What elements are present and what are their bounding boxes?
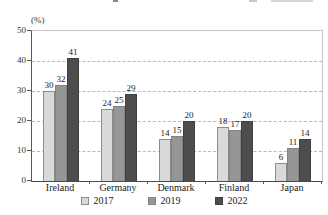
category-label-denmark: Denmark — [147, 182, 205, 193]
bar-2019-japan — [287, 148, 299, 181]
bar-value-label: 32 — [57, 74, 66, 84]
bar-wrap: 15 — [171, 125, 183, 181]
bar-value-label: 11 — [289, 137, 298, 147]
bar-value-label: 15 — [173, 125, 182, 135]
bar-2022-japan — [299, 139, 311, 181]
bar-group-denmark: 141520 — [148, 31, 206, 181]
bar-value-label: 18 — [219, 116, 228, 126]
bar-group-japan: 61114 — [264, 31, 322, 181]
bar-2017-germany — [101, 109, 113, 181]
legend-label: 2017 — [94, 196, 114, 206]
bar-value-label: 41 — [69, 47, 78, 57]
bar-2022-germany — [125, 94, 137, 181]
bar-2017-denmark — [159, 139, 171, 181]
bar-wrap: 30 — [43, 80, 55, 181]
bar-value-label: 14 — [301, 128, 310, 138]
y-tick-label: 0 — [4, 175, 26, 185]
bar-wrap: 18 — [217, 116, 229, 181]
category-label-finland: Finland — [205, 182, 263, 193]
plot-area: 30324124252914152018172061114 — [31, 30, 323, 182]
bar-wrap: 29 — [125, 83, 137, 181]
bar-wrap: 32 — [55, 74, 67, 181]
cropped-text-artifact — [113, 0, 118, 2]
y-tick-label: 50 — [4, 25, 26, 35]
bar-chart-figure: (%) 01020304050 303241242529141520181720… — [0, 0, 328, 215]
bar-value-label: 24 — [103, 98, 112, 108]
bar-2022-ireland — [67, 58, 79, 181]
legend: 201720192022 — [0, 196, 328, 206]
bar-2019-germany — [113, 106, 125, 181]
bar-wrap: 20 — [241, 110, 253, 181]
y-tick-label: 40 — [4, 55, 26, 65]
bar-group-ireland: 303241 — [32, 31, 90, 181]
bar-2019-denmark — [171, 136, 183, 181]
y-tick-label: 10 — [4, 145, 26, 155]
legend-item-2019: 2019 — [148, 196, 181, 206]
legend-item-2017: 2017 — [81, 196, 114, 206]
category-label-ireland: Ireland — [31, 182, 89, 193]
bar-group-finland: 181720 — [206, 31, 264, 181]
legend-label: 2019 — [161, 196, 181, 206]
bar-2017-japan — [275, 163, 287, 181]
bar-2017-ireland — [43, 91, 55, 181]
category-label-germany: Germany — [89, 182, 147, 193]
bar-wrap: 41 — [67, 47, 79, 181]
legend-label: 2022 — [228, 196, 248, 206]
bar-value-label: 30 — [45, 80, 54, 90]
bar-wrap: 14 — [299, 128, 311, 181]
legend-swatch-2022 — [215, 197, 223, 205]
bar-2017-finland — [217, 127, 229, 181]
bar-wrap: 14 — [159, 128, 171, 181]
bar-wrap: 11 — [287, 137, 299, 181]
bar-value-label: 14 — [161, 128, 170, 138]
y-axis-unit-label: (%) — [31, 15, 45, 25]
category-label-japan: Japan — [263, 182, 321, 193]
bar-wrap: 25 — [113, 95, 125, 181]
bar-value-label: 25 — [115, 95, 124, 105]
x-tick-mark — [321, 181, 322, 184]
bar-value-label: 17 — [231, 119, 240, 129]
bar-wrap: 20 — [183, 110, 195, 181]
bar-2019-finland — [229, 130, 241, 181]
legend-swatch-2017 — [81, 197, 89, 205]
bar-value-label: 20 — [185, 110, 194, 120]
bar-2019-ireland — [55, 85, 67, 181]
bar-groups: 30324124252914152018172061114 — [32, 31, 322, 181]
bar-value-label: 20 — [243, 110, 252, 120]
cropped-text-artifact — [249, 0, 257, 2]
bar-wrap: 17 — [229, 119, 241, 181]
bar-2022-finland — [241, 121, 253, 181]
legend-swatch-2019 — [148, 197, 156, 205]
y-tick-label: 30 — [4, 85, 26, 95]
category-axis: IrelandGermanyDenmarkFinlandJapan — [31, 182, 321, 193]
y-tick-label: 20 — [4, 115, 26, 125]
bar-value-label: 29 — [127, 83, 136, 93]
bar-2022-denmark — [183, 121, 195, 181]
bar-wrap: 6 — [275, 152, 287, 181]
bar-wrap: 24 — [101, 98, 113, 181]
legend-item-2022: 2022 — [215, 196, 248, 206]
bar-value-label: 6 — [279, 152, 284, 162]
cropped-text-artifact — [271, 0, 313, 2]
bar-group-germany: 242529 — [90, 31, 148, 181]
